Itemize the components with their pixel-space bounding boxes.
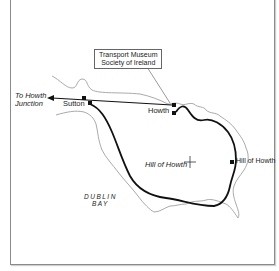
annotation-leader (147, 67, 170, 103)
station-howth-dot (172, 103, 176, 107)
label-to-howth-line2: Junction (15, 100, 46, 108)
label-howth: Howth (148, 107, 169, 115)
annotation-line1: Transport Museum (99, 51, 157, 59)
howth-tram-map: Transport Museum Society of Ireland To H… (0, 0, 279, 271)
annotation-museum-box: Transport Museum Society of Ireland (94, 49, 162, 69)
label-hill-of-howth-station: Hill of Howth (236, 157, 275, 164)
label-to-howth-junction: To Howth Junction (15, 92, 46, 108)
station-hill-of-howth-dot (230, 160, 234, 164)
station-sutton-dot (88, 101, 92, 105)
label-hill-of-howth-summit: Hill of Howth (145, 161, 187, 169)
tram-route (90, 104, 236, 206)
arrow-west-icon (47, 95, 54, 101)
station-howth-loop-dot (172, 111, 176, 115)
coastline-north (52, 76, 248, 218)
label-sutton: Sutton (63, 100, 85, 108)
map-graphics (0, 0, 279, 271)
label-dublin-bay: DUBLIN BAY (84, 194, 117, 208)
annotation-line2: Society of Ireland (99, 59, 157, 67)
label-bay: BAY (84, 201, 117, 208)
